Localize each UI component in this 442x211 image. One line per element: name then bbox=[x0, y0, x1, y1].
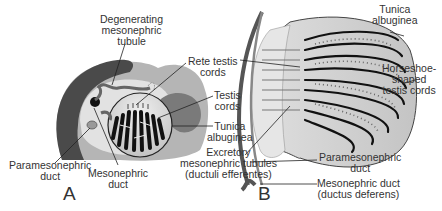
panel-a-drawing bbox=[56, 60, 208, 161]
panel-label-a: A bbox=[63, 183, 76, 205]
label-paramesonephric-duct-a: Paramesonephric duct bbox=[9, 160, 91, 182]
label-excretory-mesonephric-tubules: Excretory mesonephric tubules (ductuli e… bbox=[180, 147, 277, 180]
label-mesonephric-duct-b: Mesonephric duct (ductus deferens) bbox=[317, 178, 400, 200]
label-mesonephric-duct-a: Mesonephric duct bbox=[88, 168, 148, 190]
label-tunica-albuginea-a: Tunica albuginea bbox=[207, 121, 253, 143]
label-degenerating-tubule: Degenerating mesonephric tubule bbox=[100, 14, 163, 47]
panel-label-b: B bbox=[258, 183, 271, 205]
label-rete-testis-cords: Rete testis cords bbox=[188, 56, 238, 78]
label-tunica-albuginea-b: Tunica albuginea bbox=[372, 4, 418, 26]
label-horseshoe-testis-cords: Horseshoe- shaped testis cords bbox=[382, 63, 436, 96]
label-testis-cords: Testis cords bbox=[214, 90, 241, 112]
label-paramesonephric-duct-b: Paramesonephric duct bbox=[319, 152, 401, 174]
